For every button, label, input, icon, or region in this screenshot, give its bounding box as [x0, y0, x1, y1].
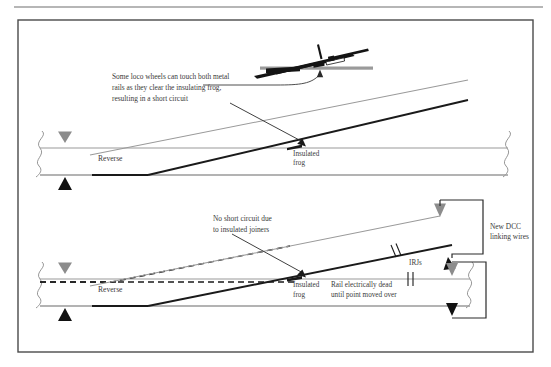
- dead-rail-label-line-1: Rail electrically dead: [331, 281, 392, 289]
- page-background: [0, 0, 551, 367]
- upper-frog-label-line-2: frog: [293, 159, 305, 167]
- lower-callout-line-1: No short circuit due: [213, 214, 273, 223]
- dcc-wires-label-line-2: linking wires: [490, 232, 529, 241]
- upper-callout-line-2: rails as they clear the insulating frog,: [112, 83, 222, 92]
- upper-callout-line-3: resulting in a short circuit: [112, 94, 189, 103]
- lower-route-label: Reverse: [98, 285, 123, 294]
- irj-label: IRJs: [409, 259, 422, 267]
- lower-frog-label-line-2: frog: [293, 291, 305, 299]
- diagram-page: Some loco wheels can touch both metal ra…: [0, 0, 551, 367]
- lower-frog-label-line-1: Insulated: [293, 281, 320, 289]
- lower-callout-line-2: to insulated joiners: [213, 225, 269, 234]
- upper-frog-label-line-1: Insulated: [293, 150, 320, 158]
- dead-rail-label-line-2: until point moved over: [331, 291, 397, 299]
- upper-callout-line-1: Some loco wheels can touch both metal: [112, 72, 229, 81]
- upper-route-label: Reverse: [98, 154, 123, 163]
- dcc-wires-label-line-1: New DCC: [490, 222, 521, 231]
